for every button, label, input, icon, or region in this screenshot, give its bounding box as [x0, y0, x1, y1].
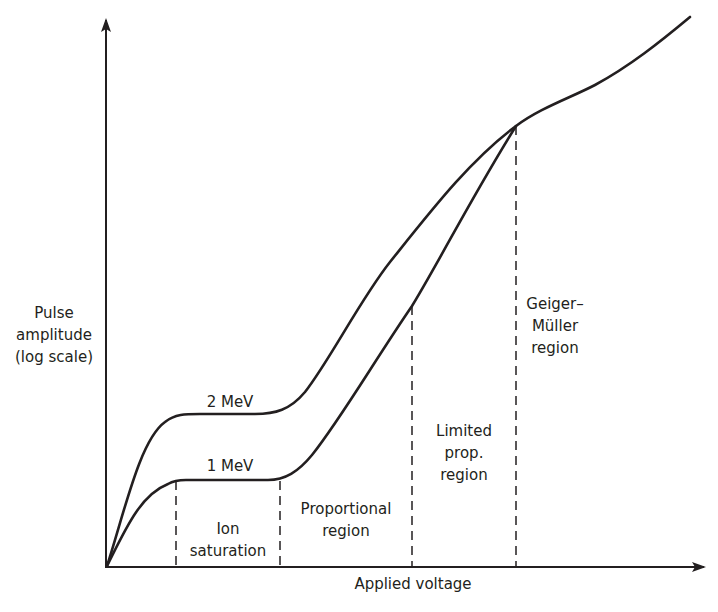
curve-label-2mev: 2 MeV [190, 391, 270, 413]
region-label-line: Ion [178, 518, 278, 540]
region-label-line: Müller [515, 315, 595, 337]
y-axis-label-line: (log scale) [8, 346, 100, 368]
region-label-geiger-muller: Geiger– Müller region [515, 293, 595, 359]
y-axis-label: Pulse amplitude (log scale) [8, 302, 100, 368]
region-label-limited-prop: Limited prop. region [414, 420, 514, 486]
y-axis-label-line: amplitude [8, 324, 100, 346]
region-label-line: region [282, 520, 410, 542]
region-label-proportional: Proportional region [282, 498, 410, 542]
region-label-line: prop. [414, 442, 514, 464]
region-label-line: Limited [414, 420, 514, 442]
region-label-line: region [515, 337, 595, 359]
region-label-line: Geiger– [515, 293, 595, 315]
x-axis-label: Applied voltage [338, 573, 488, 595]
region-label-line: region [414, 464, 514, 486]
curve-label-1mev: 1 MeV [190, 455, 270, 477]
curve-1mev [107, 17, 690, 566]
region-label-line: Proportional [282, 498, 410, 520]
y-axis-label-line: Pulse [8, 302, 100, 324]
region-label-ion-saturation: Ion saturation [178, 518, 278, 562]
region-label-line: saturation [178, 540, 278, 562]
